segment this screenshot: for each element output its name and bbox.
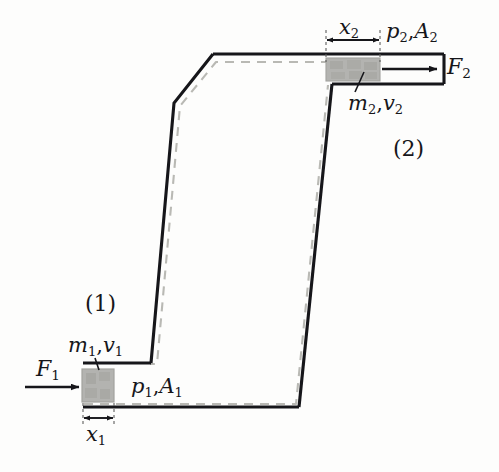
label-displacement-x1: x1 xyxy=(86,424,106,447)
label-displacement-x2: x2 xyxy=(339,17,359,40)
label-force-F1: F1 xyxy=(36,358,60,382)
label-pressure-area-1: p1,A1 xyxy=(131,376,183,399)
label-mass-velocity-1: m1,v1 xyxy=(68,335,123,358)
label-mass-velocity-2: m2,v2 xyxy=(348,93,403,116)
label-pressure-area-2: p2,A2 xyxy=(386,21,438,44)
label-station-one: (1) xyxy=(85,293,116,315)
piston-block-left xyxy=(82,369,114,402)
label-force-F2: F2 xyxy=(447,56,471,80)
figure-canvas xyxy=(0,0,499,472)
piston-block-right xyxy=(326,58,380,81)
bernoulli-flow-tube-figure: F1 F2 m1,v1 m2,v2 p1,A1 p2,A2 x1 x2 (1) … xyxy=(0,0,499,472)
label-station-two: (2) xyxy=(393,138,424,160)
